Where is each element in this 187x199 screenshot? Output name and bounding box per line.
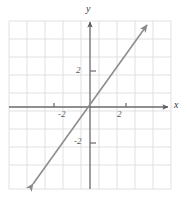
y-tick-label-neg-2: -2 [74,137,82,146]
graph-canvas [0,0,187,199]
coordinate-plane-figure: x y -2 2 2 -2 [0,0,187,199]
x-axis-label: x [174,100,178,110]
y-axis-label: y [86,4,90,14]
x-tick-label-pos-2: 2 [117,110,122,119]
y-tick-label-pos-2: 2 [76,66,81,75]
x-tick-label-neg-2: -2 [58,110,66,119]
